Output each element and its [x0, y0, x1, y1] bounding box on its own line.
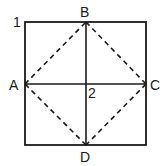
dashed-line-a-b — [25, 22, 86, 84]
point-label-d: D — [80, 149, 90, 165]
figure-label: 1 — [13, 14, 21, 30]
dashed-line-d-a — [25, 84, 86, 145]
dashed-line-b-c — [86, 22, 146, 84]
square-diamond-diagram: 1 A B C D 2 — [0, 0, 167, 166]
point-label-b: B — [80, 4, 89, 20]
center-label: 2 — [88, 85, 96, 101]
point-label-c: C — [150, 77, 160, 93]
point-label-a: A — [9, 77, 19, 93]
